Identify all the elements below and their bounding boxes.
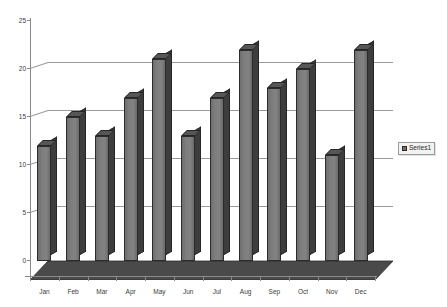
x-tick-mark [260, 277, 261, 281]
bar-side-face [281, 79, 287, 255]
x-tick-label: Feb [68, 289, 79, 296]
x-tick-label: Apr [126, 289, 136, 296]
x-tick-mark [59, 277, 60, 281]
x-tick-mark [145, 277, 146, 281]
x-tick-label: Sep [269, 289, 281, 296]
x-tick-label: Jan [39, 289, 49, 296]
bar-side-face [109, 127, 115, 255]
bar-front-face [66, 117, 80, 261]
bar-side-face [310, 60, 316, 255]
bar-front-face [124, 98, 138, 261]
bar-series-series1 [30, 18, 393, 280]
bar-side-face [138, 88, 144, 255]
legend-item-label: Series1 [409, 145, 431, 152]
bar-side-face [339, 146, 345, 255]
plot-inner: 0510152025 [30, 18, 393, 280]
bar-side-face [224, 88, 230, 255]
bar-front-face [95, 136, 109, 261]
x-tick-mark [318, 277, 319, 281]
bar-front-face [296, 69, 310, 261]
bar-side-face [166, 50, 172, 255]
bar-side-face [195, 127, 201, 255]
bar-chart: 0510152025 JanFebMarAprMayJunJulAugSepOc… [0, 0, 447, 307]
x-tick-label: May [153, 289, 165, 296]
bar-side-face [51, 136, 57, 255]
bar-front-face [354, 50, 368, 261]
x-tick-mark [375, 277, 376, 281]
x-axis-line [25, 276, 377, 277]
x-tick-label: Aug [240, 289, 252, 296]
x-tick-mark [30, 277, 31, 281]
x-tick-label: Nov [326, 289, 338, 296]
y-tick-label: 0 [22, 258, 26, 265]
bar-front-face [210, 98, 224, 261]
bar-front-face [239, 50, 253, 261]
y-tick-label: 25 [19, 18, 26, 25]
bar-front-face [152, 59, 166, 261]
x-tick-label: Jul [213, 289, 221, 296]
x-tick-mark [203, 277, 204, 281]
bar-side-face [80, 108, 86, 255]
bar-front-face [181, 136, 195, 261]
y-tick-label: 20 [19, 66, 26, 73]
legend[interactable]: Series1 [398, 142, 435, 155]
x-tick-label: Dec [355, 289, 367, 296]
x-tick-label: Mar [96, 289, 107, 296]
x-tick-mark [174, 277, 175, 281]
bar-front-face [325, 155, 339, 261]
bar-side-face [368, 40, 374, 255]
x-tick-mark [231, 277, 232, 281]
x-axis-labels: JanFebMarAprMayJunJulAugSepOctNovDec [30, 283, 393, 301]
y-tick-label: 5 [22, 210, 26, 217]
x-tick-mark [88, 277, 89, 281]
y-tick-label: 15 [19, 114, 26, 121]
y-tick-label: 10 [19, 162, 26, 169]
plot-area: 0510152025 [30, 18, 393, 280]
x-tick-label: Oct [298, 289, 308, 296]
bar-front-face [37, 146, 51, 261]
bar-front-face [267, 88, 281, 261]
x-tick-label: Jun [183, 289, 193, 296]
legend-swatch-icon [402, 146, 407, 151]
x-tick-mark [346, 277, 347, 281]
bar-side-face [253, 40, 259, 255]
x-tick-mark [116, 277, 117, 281]
x-tick-mark [289, 277, 290, 281]
